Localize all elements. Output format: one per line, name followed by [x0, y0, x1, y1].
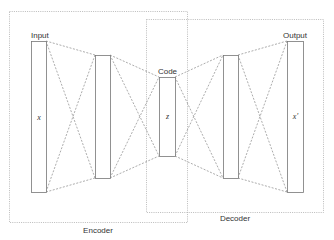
decoder-label: Decoder — [220, 214, 251, 223]
encoder-label: Encoder — [83, 226, 113, 235]
output-label: Output — [283, 31, 308, 40]
code-label: Code — [158, 67, 178, 76]
input-variable: x — [36, 113, 41, 122]
encoder-hidden-layer — [96, 56, 111, 179]
decoder-hidden-layer — [224, 56, 239, 179]
input-label: Input — [31, 31, 50, 40]
output-variable: x' — [292, 112, 299, 121]
autoencoder-diagram: Input Code Output x z x' Encoder Decoder — [0, 0, 334, 240]
